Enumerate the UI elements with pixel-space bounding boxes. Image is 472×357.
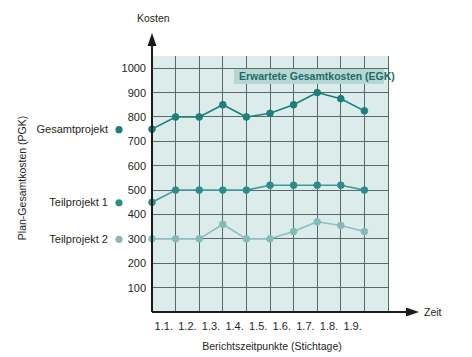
data-point <box>361 107 368 114</box>
data-point <box>267 182 274 189</box>
y-tick-label: 800 <box>128 111 146 123</box>
y-tick-label: 1000 <box>122 62 146 74</box>
x-tick-labels: 1.1.1.2.1.3.1.4.1.5.1.6.1.7.1.8.1.9. <box>155 320 362 332</box>
data-point <box>196 187 203 194</box>
y-tick-label: 100 <box>128 282 146 294</box>
data-point <box>243 235 250 242</box>
data-point <box>196 114 203 121</box>
data-point <box>290 228 297 235</box>
y-tick-label: 900 <box>128 87 146 99</box>
data-point <box>290 101 297 108</box>
x-axis-arrow <box>406 308 419 317</box>
data-point <box>314 89 321 96</box>
x-tick-label: 1.8. <box>320 320 338 332</box>
data-point <box>361 187 368 194</box>
y-tick-label: 600 <box>128 160 146 172</box>
data-point <box>361 228 368 235</box>
data-point <box>337 222 344 229</box>
y-tick-label: 400 <box>128 208 146 220</box>
y-tick-label: 300 <box>128 233 146 245</box>
data-point <box>290 182 297 189</box>
data-point <box>243 114 250 121</box>
data-point <box>337 182 344 189</box>
x-tick-label: 1.1. <box>155 320 173 332</box>
annotation-erwartete-gesamtkosten: Erwartete Gesamtkosten (EGK) <box>234 69 395 84</box>
x-tick-label: 1.9. <box>343 320 361 332</box>
x-tick-label: 1.2. <box>178 320 196 332</box>
x-axis-name: Zeit <box>424 306 442 318</box>
x-tick-label: 1.7. <box>296 320 314 332</box>
y-tick-label: 700 <box>128 135 146 147</box>
legend-label-1: Gesamtprojekt <box>36 123 108 135</box>
data-point <box>172 235 179 242</box>
x-tick-label: 1.5. <box>249 320 267 332</box>
data-point <box>314 182 321 189</box>
chart-container: Erwartete Gesamtkosten (EGK)100200300400… <box>0 0 472 357</box>
annotation-label: Erwartete Gesamtkosten (EGK) <box>239 70 395 82</box>
data-point <box>267 235 274 242</box>
data-point <box>243 187 250 194</box>
y-tick-label: 200 <box>128 257 146 269</box>
data-point <box>219 221 226 228</box>
legend: GesamtprojektTeilprojekt 1Teilprojekt 2 <box>36 123 122 245</box>
line-chart: Erwartete Gesamtkosten (EGK)100200300400… <box>0 0 472 357</box>
data-point <box>196 235 203 242</box>
y-axis-title: Plan-Gesamtkosten (PGK) <box>16 116 28 240</box>
y-tick-labels: 1002003004005006007008009001000 <box>122 62 146 293</box>
y-tick-label: 500 <box>128 184 146 196</box>
data-point <box>172 114 179 121</box>
legend-marker-2 <box>115 199 122 206</box>
legend-label-2: Teilprojekt 1 <box>49 196 108 208</box>
data-point <box>219 101 226 108</box>
y-axis-arrow <box>148 33 157 46</box>
legend-label-3: Teilprojekt 2 <box>49 233 108 245</box>
x-tick-label: 1.6. <box>273 320 291 332</box>
data-point <box>219 187 226 194</box>
data-point <box>172 187 179 194</box>
data-point <box>267 110 274 117</box>
data-point <box>314 218 321 225</box>
legend-marker-3 <box>115 236 122 243</box>
x-tick-label: 1.3. <box>202 320 220 332</box>
x-axis-title: Berichtszeitpunkte (Stichtage) <box>202 340 341 352</box>
legend-marker-1 <box>115 126 122 133</box>
y-axis-name: Kosten <box>137 12 170 24</box>
data-point <box>337 95 344 102</box>
x-tick-label: 1.4. <box>225 320 243 332</box>
